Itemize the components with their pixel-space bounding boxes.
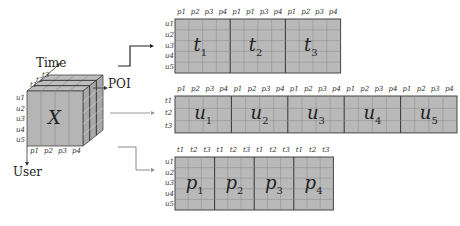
poi-label: p4 [72, 147, 81, 155]
column-header: t3 [243, 146, 250, 154]
column-header: p4 [218, 8, 227, 16]
column-header: t1 [256, 146, 263, 154]
poi-axis-label: POI [108, 77, 131, 91]
column-header: p3 [205, 85, 214, 93]
time-label: t3 [42, 71, 49, 79]
row-label: u5 [165, 63, 174, 71]
row-label: t2 [165, 109, 172, 117]
block-label: t1 [194, 34, 208, 58]
row-label: u4 [165, 52, 174, 60]
column-header: p3 [205, 8, 214, 16]
column-header: p1 [232, 8, 241, 16]
poi-label: p2 [44, 147, 53, 155]
column-header: t1 [217, 146, 224, 154]
row-label: u2 [165, 31, 174, 39]
column-header: p4 [276, 85, 285, 93]
column-header: p3 [262, 85, 271, 93]
tensor-symbol: X [48, 107, 61, 128]
column-header: p4 [219, 85, 228, 93]
row-label: u3 [165, 179, 174, 187]
column-header: p4 [445, 85, 454, 93]
row-label: u3 [165, 42, 174, 50]
column-header: p1 [287, 8, 296, 16]
column-header: t2 [269, 146, 276, 154]
column-header: p4 [329, 8, 338, 16]
column-header: t3 [322, 146, 329, 154]
block-label: u3 [307, 102, 325, 126]
column-header: p3 [260, 8, 269, 16]
column-header: p1 [290, 85, 299, 93]
row-label: u5 [165, 200, 174, 208]
column-header: p1 [403, 85, 412, 93]
column-header: p2 [301, 8, 310, 16]
column-header: p2 [417, 85, 426, 93]
user-label: u2 [16, 105, 25, 113]
block-label: p4 [305, 172, 323, 196]
row-label: u1 [165, 158, 174, 166]
column-header: p1 [346, 85, 355, 93]
column-header: p2 [191, 85, 200, 93]
poi-label: p1 [30, 147, 39, 155]
row-label: u4 [165, 190, 174, 198]
block-label: u1 [194, 102, 212, 126]
column-header: p3 [315, 8, 324, 16]
column-header: t1 [296, 146, 303, 154]
user-label: u5 [16, 136, 25, 144]
column-header: p3 [374, 85, 383, 93]
block-label: t2 [249, 34, 263, 58]
column-header: p2 [360, 85, 369, 93]
row-label: t1 [165, 97, 172, 105]
column-header: t2 [230, 146, 237, 154]
column-header: p1 [233, 85, 242, 93]
column-header: p3 [431, 85, 440, 93]
column-header: t3 [203, 146, 210, 154]
time-axis-label: Time [36, 56, 66, 70]
block-label: u4 [363, 102, 381, 126]
column-header: t2 [309, 146, 316, 154]
column-header: p4 [332, 85, 341, 93]
poi-label: p3 [58, 147, 67, 155]
block-label: p1 [186, 172, 204, 196]
column-header: p3 [318, 85, 327, 93]
column-header: p1 [177, 8, 186, 16]
user-label: u1 [16, 94, 25, 102]
column-header: p1 [246, 8, 255, 16]
column-header: p4 [274, 8, 283, 16]
block-label: u2 [251, 102, 269, 126]
column-header: p1 [177, 85, 186, 93]
user-label: u3 [16, 115, 25, 123]
block-label: p2 [225, 172, 243, 196]
column-header: t1 [177, 146, 184, 154]
user-label: u4 [16, 126, 25, 134]
block-label: p3 [265, 172, 283, 196]
column-header: t3 [283, 146, 290, 154]
user-axis-label: User [13, 165, 42, 179]
column-header: t2 [190, 146, 197, 154]
column-header: p2 [248, 85, 257, 93]
column-header: p2 [191, 8, 200, 16]
column-header: p4 [389, 85, 398, 93]
column-header: p2 [304, 85, 313, 93]
row-label: u1 [165, 20, 174, 28]
block-label: u5 [420, 102, 438, 126]
tensor-unfolding-diagram: TimePOIUserXt1t2t3u1u2u3u4u5p1p2p3p4t1t2… [0, 0, 460, 226]
row-label: u2 [165, 169, 174, 177]
block-label: t3 [304, 34, 318, 58]
row-label: t3 [165, 122, 172, 130]
